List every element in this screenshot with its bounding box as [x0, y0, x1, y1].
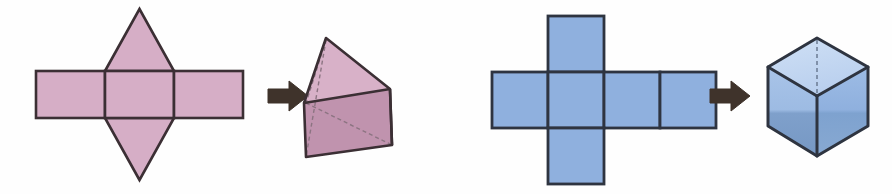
figure-container: Triangular prism net Triangular prism Cu… — [0, 0, 892, 194]
net-rect-right — [174, 71, 243, 118]
net-square-bottom — [548, 128, 604, 184]
net-square-row-4 — [660, 72, 716, 128]
net-square-row-3 — [604, 72, 660, 128]
net-square-top — [548, 16, 604, 72]
net-rect-left — [36, 71, 105, 118]
net-square-row-2 — [548, 72, 604, 128]
net-rect-middle — [105, 71, 174, 118]
net-square-row-1 — [492, 72, 548, 128]
nets-and-solids-diagram — [0, 0, 892, 194]
